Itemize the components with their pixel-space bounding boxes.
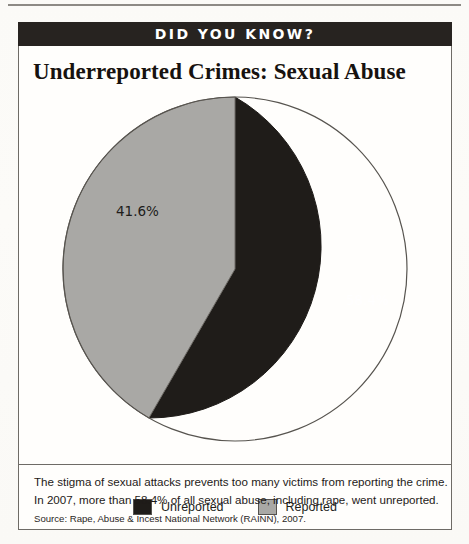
source-citation: Source: Rape, Abuse & Incest National Ne… — [34, 512, 438, 525]
pie-graphic: 41.6% 58.4% — [60, 95, 410, 443]
did-you-know-banner: DID YOU KNOW? — [18, 22, 452, 46]
caption-divider — [19, 464, 451, 465]
did-you-know-infobox: DID YOU KNOW? Underreported Crimes: Sexu… — [18, 22, 452, 530]
pie-label-reported: 41.6% — [116, 203, 159, 219]
pie-svg — [60, 95, 410, 443]
page-title: Underreported Crimes: Sexual Abuse — [33, 59, 437, 85]
scanned-page: DID YOU KNOW? Underreported Crimes: Sexu… — [0, 0, 469, 544]
caption-line-1: The stigma of sexual attacks prevents to… — [34, 473, 438, 491]
pie-chart: 41.6% 58.4% Unreported Reported — [19, 85, 451, 441]
caption-block: The stigma of sexual attacks prevents to… — [34, 473, 438, 508]
banner-label: DID YOU KNOW? — [155, 27, 315, 41]
caption-line-2: In 2007, more than 58.4% of all sexual a… — [34, 491, 438, 509]
page-top-rule — [8, 4, 461, 6]
pie-label-unreported: 58.4% — [346, 292, 389, 308]
